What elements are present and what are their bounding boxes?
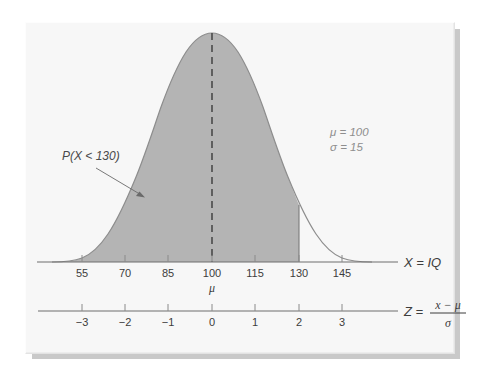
x-tick-label-3: 100 bbox=[203, 267, 221, 279]
z-axis-title-lhs: Z = bbox=[403, 304, 424, 319]
z-tick-label-2: −1 bbox=[162, 316, 175, 328]
x-tick-label-0: 55 bbox=[76, 267, 88, 279]
z-axis-denominator: σ bbox=[445, 316, 452, 330]
x-tick-label-2: 85 bbox=[162, 267, 174, 279]
z-axis-ticks bbox=[82, 304, 342, 311]
probability-label: P(X < 130) bbox=[62, 149, 120, 163]
normal-curve-chart: 55 70 85 100 115 130 145 μ X = IQ −3 −2 … bbox=[0, 0, 479, 378]
x-tick-label-4: 115 bbox=[246, 267, 264, 279]
mean-marker-label: μ bbox=[208, 281, 215, 295]
x-tick-label-1: 70 bbox=[119, 267, 131, 279]
sigma-parameter-label: σ = 15 bbox=[330, 141, 363, 153]
z-tick-label-1: −2 bbox=[119, 316, 132, 328]
z-tick-label-3: 0 bbox=[209, 316, 215, 328]
z-axis-numerator: x − μ bbox=[434, 298, 460, 312]
z-tick-label-6: 3 bbox=[339, 316, 345, 328]
z-tick-label-0: −3 bbox=[76, 316, 89, 328]
mu-parameter-label: μ = 100 bbox=[329, 126, 369, 138]
figure-root: 55 70 85 100 115 130 145 μ X = IQ −3 −2 … bbox=[0, 0, 479, 378]
x-tick-label-6: 145 bbox=[333, 267, 351, 279]
x-axis-title: X = IQ bbox=[403, 255, 441, 270]
x-tick-label-5: 130 bbox=[290, 267, 308, 279]
z-tick-label-5: 2 bbox=[296, 316, 302, 328]
z-tick-label-4: 1 bbox=[252, 316, 258, 328]
